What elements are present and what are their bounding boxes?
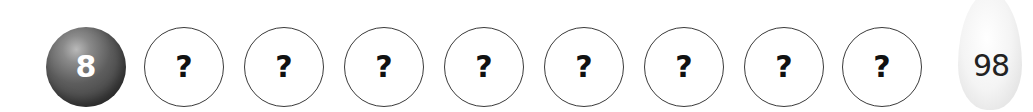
eight-ball-icon: 8 [46, 27, 126, 107]
answer-slot-1[interactable]: ? [144, 27, 224, 107]
question-mark-icon: ? [675, 52, 692, 82]
question-mark-icon: ? [575, 52, 592, 82]
question-mark-icon: ? [275, 52, 292, 82]
answer-slot-5[interactable]: ? [544, 27, 624, 107]
question-mark-icon: ? [375, 52, 392, 82]
ball-number: 8 [76, 52, 97, 82]
question-mark-icon: ? [175, 52, 192, 82]
question-mark-icon: ? [475, 52, 492, 82]
answer-slot-6[interactable]: ? [644, 27, 724, 107]
pin-number: 98 [966, 51, 1016, 81]
question-mark-icon: ? [775, 52, 792, 82]
answer-slot-2[interactable]: ? [244, 27, 324, 107]
answer-slot-4[interactable]: ? [444, 27, 524, 107]
answer-slot-3[interactable]: ? [344, 27, 424, 107]
answer-slot-7[interactable]: ? [744, 27, 824, 107]
question-mark-icon: ? [873, 52, 890, 82]
answer-slot-8[interactable]: ? [842, 27, 922, 107]
